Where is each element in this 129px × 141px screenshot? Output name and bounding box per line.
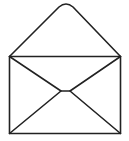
envelope-inner-fold-bottom [10,91,121,134]
envelope-flap [10,4,121,57]
open-envelope-icon [0,0,129,141]
envelope-inner-fold-top [10,57,121,92]
envelope-svg [0,0,129,141]
